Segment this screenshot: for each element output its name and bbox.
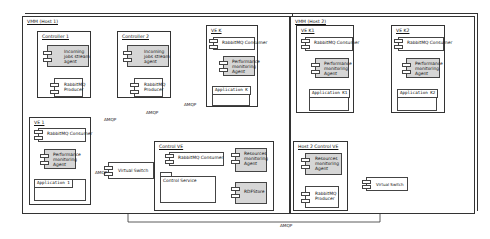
ve-k1-node: VE K1 RabbitMQ Consumer Performance moni… bbox=[296, 25, 354, 113]
ve-k2-node: VE K2 RabbitMQ Consumer Performance moni… bbox=[391, 25, 445, 113]
ve-k1-agent-component: Performance monitoring Agent bbox=[315, 58, 349, 78]
controller1-producer-label: RabbitMQ Producer bbox=[64, 82, 84, 92]
ve-k1-agent-label: Performance monitoring Agent bbox=[324, 61, 350, 77]
component-port-icon bbox=[219, 68, 228, 72]
component-port-icon bbox=[165, 160, 174, 164]
vek-agent-component: Performance monitoring Agent bbox=[223, 56, 255, 76]
controller1-node: Controller 1 Incoming jobs stream agent … bbox=[37, 31, 91, 98]
component-port-icon bbox=[130, 90, 139, 94]
amqp-label: AMQP bbox=[184, 102, 196, 107]
amqp-label: AMQP bbox=[280, 223, 292, 228]
ve1-node: VE 1 RabbitMQ Consumer Performance monit… bbox=[29, 117, 91, 205]
component-port-icon bbox=[165, 154, 174, 158]
component-port-icon bbox=[311, 70, 320, 74]
host2-switch-label: Virtual Switch bbox=[376, 182, 404, 187]
ve1-agent-label: Performance monitoring Agent bbox=[53, 152, 77, 168]
component-port-icon bbox=[301, 45, 310, 49]
ve-k2-application: Application K2 bbox=[397, 89, 437, 111]
vek-agent-label: Performance monitoring Agent bbox=[232, 59, 256, 75]
ve-k2-application-label: Application K2 bbox=[397, 89, 438, 98]
ve-k1-consumer-label: RabbitMQ Consumer bbox=[314, 40, 359, 45]
control-ve-resource-agent-label: Resources monitoring Agent bbox=[244, 151, 268, 167]
controller2-title: Controller 2 bbox=[122, 34, 149, 39]
control-ve-resource-agent: Resources monitoring Agent bbox=[235, 148, 267, 172]
host2-virtual-switch: Virtual Switch bbox=[366, 177, 408, 191]
component-port-icon bbox=[40, 161, 49, 165]
vek-consumer-component: RabbitMQ Consumer bbox=[213, 37, 255, 50]
control-ve-consumer-label: RabbitMQ Consumer bbox=[178, 155, 223, 160]
ve1-title: VE 1 bbox=[34, 120, 44, 125]
component-port-icon bbox=[362, 185, 371, 189]
ve-k2-agent-label: Performance monitoring Agent bbox=[415, 61, 441, 77]
controller2-producer-label: RabbitMQ Producer bbox=[144, 82, 164, 92]
amqp-label: AMQP bbox=[146, 110, 158, 115]
component-port-icon bbox=[394, 39, 403, 43]
amqp-label: AMQP bbox=[95, 170, 107, 175]
package-tab bbox=[160, 172, 172, 177]
controller2-node: Controller 2 Incoming jobs stream agent … bbox=[117, 31, 171, 98]
ve1-application-label: Application 1 bbox=[34, 179, 73, 188]
component-port-icon bbox=[311, 63, 320, 67]
control-service-label: Control Service bbox=[163, 178, 197, 183]
component-port-icon bbox=[301, 192, 310, 196]
component-port-icon bbox=[43, 51, 52, 55]
vek-application: Application K bbox=[212, 86, 250, 106]
component-port-icon bbox=[34, 136, 43, 140]
component-port-icon bbox=[50, 90, 59, 94]
control-ve-title: Control VE bbox=[159, 144, 183, 149]
controller2-agent-component: Incoming jobs stream agent bbox=[127, 45, 169, 67]
rdfstore-component: RDFStore bbox=[235, 182, 267, 204]
component-port-icon bbox=[123, 51, 132, 55]
ve-k1-consumer-component: RabbitMQ Consumer bbox=[305, 37, 353, 51]
ve-k1-application: Application K1 bbox=[309, 89, 349, 111]
component-port-icon bbox=[231, 153, 240, 157]
vek-application-label: Application K bbox=[212, 86, 251, 95]
component-port-icon bbox=[123, 58, 132, 62]
host1-switch-label: Virtual Switch bbox=[118, 168, 148, 173]
host2-control-ve-title: Host 2 Control VE bbox=[298, 144, 338, 149]
ve-k1-title: VE K1 bbox=[301, 28, 314, 33]
component-port-icon bbox=[301, 158, 310, 162]
component-port-icon bbox=[231, 194, 240, 198]
component-port-icon bbox=[402, 70, 411, 74]
ve-k2-consumer-label: RabbitMQ Consumer bbox=[407, 40, 452, 45]
control-service: Control Service bbox=[160, 176, 216, 203]
amqp-label: AMQP bbox=[104, 117, 116, 122]
controller2-agent-label: Incoming jobs stream agent bbox=[144, 49, 170, 65]
vek-node: VE K RabbitMQ Consumer Performance monit… bbox=[206, 25, 258, 107]
host2-producer-label: RabbitMQ Producer bbox=[315, 191, 339, 201]
component-port-icon bbox=[209, 45, 218, 49]
controller1-title: Controller 1 bbox=[42, 34, 69, 39]
host2-control-ve-node: Host 2 Control VE Resources monitoring A… bbox=[293, 141, 348, 211]
component-port-icon bbox=[40, 154, 49, 158]
component-port-icon bbox=[50, 83, 59, 87]
component-port-icon bbox=[301, 165, 310, 169]
ve1-agent-component: Performance monitoring Agent bbox=[44, 149, 76, 169]
component-port-icon bbox=[219, 61, 228, 65]
ve-k1-application-label: Application K1 bbox=[309, 89, 350, 98]
ve1-application: Application 1 bbox=[34, 179, 86, 201]
host1-virtual-switch: Virtual Switch bbox=[108, 162, 154, 179]
component-port-icon bbox=[34, 130, 43, 134]
controller1-agent-label: Incoming jobs stream agent bbox=[64, 49, 90, 65]
component-port-icon bbox=[231, 187, 240, 191]
host2-resource-agent: Resources monitoring Agent bbox=[305, 153, 342, 175]
vek-consumer-label: RabbitMQ Consumer bbox=[222, 40, 267, 45]
component-port-icon bbox=[402, 63, 411, 67]
component-port-icon bbox=[43, 58, 52, 62]
controller1-producer-component: RabbitMQ Producer bbox=[54, 78, 83, 97]
component-port-icon bbox=[362, 180, 371, 184]
ve-k2-consumer-component: RabbitMQ Consumer bbox=[398, 37, 444, 51]
ve1-consumer-component: RabbitMQ Consumer bbox=[38, 128, 86, 142]
component-port-icon bbox=[394, 45, 403, 49]
vek-title: VE K bbox=[211, 28, 222, 33]
host2-producer-component: RabbitMQ Producer bbox=[305, 186, 339, 208]
component-port-icon bbox=[301, 39, 310, 43]
controller1-agent-component: Incoming jobs stream agent bbox=[47, 45, 89, 67]
control-ve-consumer-component: RabbitMQ Consumer bbox=[169, 152, 224, 166]
component-port-icon bbox=[301, 199, 310, 203]
control-ve-node: Control VE RabbitMQ Consumer Control Ser… bbox=[154, 141, 274, 211]
component-port-icon bbox=[130, 83, 139, 87]
rdfstore-label: RDFStore bbox=[244, 189, 264, 194]
component-port-icon bbox=[231, 160, 240, 164]
